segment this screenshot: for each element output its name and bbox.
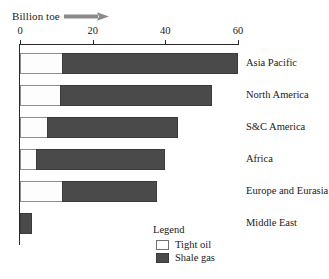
axis-unit-caption: Billion toe <box>12 9 110 23</box>
bar-segment-tight-oil <box>20 85 60 106</box>
legend-item: Shale gas <box>156 251 215 264</box>
bar-segment-shale-gas <box>36 149 165 170</box>
x-tick-label: 0 <box>17 25 22 36</box>
legend-label: Shale gas <box>175 252 215 264</box>
bar-segment-shale-gas <box>62 181 157 202</box>
stacked-bar <box>20 117 178 138</box>
x-tick-label: 40 <box>160 25 171 36</box>
legend: Legend Tight oilShale gas <box>152 224 215 264</box>
legend-items: Tight oilShale gas <box>152 238 215 264</box>
bar-segment-tight-oil <box>20 53 62 74</box>
bar-segment-tight-oil <box>20 181 62 202</box>
bar-segment-shale-gas <box>62 53 238 74</box>
category-label: Africa <box>246 153 273 165</box>
legend-label: Tight oil <box>175 239 211 251</box>
stacked-bar <box>20 53 238 74</box>
stacked-bar <box>20 149 165 170</box>
bar-segment-tight-oil <box>20 117 47 138</box>
stacked-bar <box>20 85 212 106</box>
bar-segment-shale-gas <box>20 213 32 234</box>
x-axis-line <box>19 44 239 45</box>
plot-area: 0204060 <box>20 45 238 245</box>
chart-container: Billion toe 0204060 Asia PacificNorth Am… <box>0 0 329 279</box>
category-label: Middle East <box>246 217 297 229</box>
bar-segment-shale-gas <box>47 117 178 138</box>
x-tick-mark <box>165 40 166 45</box>
category-label: S&C America <box>246 121 305 133</box>
stacked-bar <box>20 213 32 234</box>
x-tick-mark <box>20 40 21 45</box>
category-label: Asia Pacific <box>246 57 297 69</box>
legend-item: Tight oil <box>156 238 215 251</box>
category-label: Europe and Eurasia <box>246 185 328 197</box>
bar-segment-tight-oil <box>20 149 36 170</box>
x-tick-mark <box>93 40 94 45</box>
x-tick-label: 60 <box>233 25 244 36</box>
category-label: North America <box>246 89 309 101</box>
x-tick-label: 20 <box>87 25 98 36</box>
stacked-bar <box>20 181 157 202</box>
axis-unit-label: Billion toe <box>12 10 60 22</box>
x-tick-mark <box>238 40 239 45</box>
bar-segment-shale-gas <box>60 85 212 106</box>
legend-title: Legend <box>152 224 215 236</box>
legend-swatch-tight-oil <box>156 240 169 250</box>
legend-swatch-shale-gas <box>156 253 169 263</box>
right-arrow-icon <box>64 11 110 22</box>
